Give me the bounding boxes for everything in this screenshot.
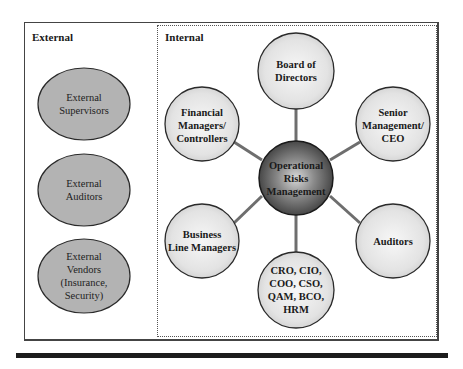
external-section-label: External — [32, 31, 73, 43]
node-senior-line: Management/ — [362, 119, 424, 132]
node-cxo-line: CRO, CIO, — [270, 264, 321, 277]
node-board-line: Board of — [276, 58, 315, 71]
node-cxo: CRO, CIO, COO, CSO, QAM, BCO, HRM — [256, 263, 336, 317]
node-cxo-line: HRM — [283, 303, 309, 316]
node-supervisors-line: Supervisors — [59, 104, 109, 117]
node-financial: Financial Managers/ Controllers — [160, 104, 244, 146]
node-business: Business Line Managers — [160, 227, 244, 255]
node-vendors-line: Vendors — [67, 263, 101, 276]
node-vendors-line: (Insurance, — [61, 276, 108, 289]
node-senior-line: Senior — [378, 106, 407, 119]
internal-section-label: Internal — [165, 31, 204, 43]
node-ext-auditors-line: Auditors — [66, 190, 103, 203]
node-supervisors-line: External — [66, 91, 102, 104]
node-business-line: Line Managers — [168, 241, 236, 254]
node-cxo-line: QAM, BCO, — [268, 290, 324, 303]
node-auditors-line: Auditors — [373, 235, 413, 248]
node-business-line: Business — [183, 228, 222, 241]
node-financial-line: Financial — [181, 106, 223, 119]
node-financial-line: Controllers — [176, 132, 227, 145]
node-vendors-line: Security) — [65, 289, 104, 302]
node-center-line: Management — [267, 185, 326, 198]
node-financial-line: Managers/ — [178, 119, 226, 132]
node-center: Operational Risks Management — [256, 150, 336, 206]
node-senior-line: CEO — [382, 132, 405, 145]
node-center-line: Risks — [284, 172, 309, 185]
node-senior: Senior Management/ CEO — [351, 104, 435, 146]
node-vendors-line: External — [66, 250, 102, 263]
node-supervisors: External Supervisors — [40, 90, 128, 118]
node-board-line: Directors — [275, 71, 317, 84]
node-ext-auditors-line: External — [66, 177, 102, 190]
node-auditors: Auditors — [353, 233, 433, 249]
node-ext-auditors: External Auditors — [40, 176, 128, 204]
bottom-rule — [16, 353, 448, 358]
node-board: Board of Directors — [256, 57, 336, 85]
node-cxo-line: COO, CSO, — [269, 277, 322, 290]
node-center-line: Operational — [269, 159, 323, 172]
node-vendors: External Vendors (Insurance, Security) — [40, 249, 128, 303]
